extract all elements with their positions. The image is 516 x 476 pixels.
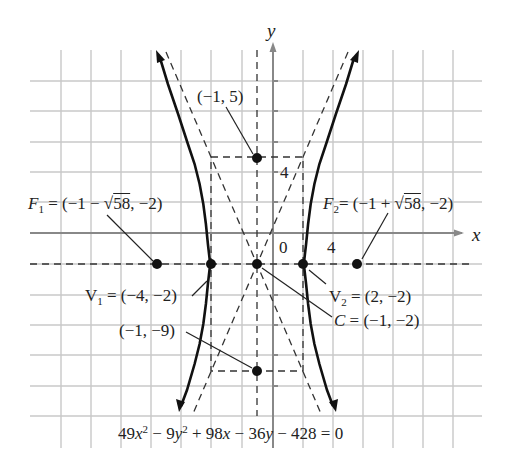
vertex1-dot [206,259,216,269]
top-dot [252,153,262,163]
axes [30,42,464,448]
x-axis-arrow-icon [454,230,464,237]
equation-label: 49x2 − 9y2 + 98x − 36y − 428 = 0 [118,425,343,442]
y-axis-arrow-icon [270,42,277,52]
x-tick-label: 4 [327,239,336,256]
arrow-top-left-icon [156,50,165,63]
bottom-point-label: (−1, −9) [119,322,175,339]
bottom-dot [252,366,262,376]
grid [30,50,482,448]
vertex2-label: V2 = (2, −2) [329,288,411,305]
y-tick-label: 4 [280,164,289,181]
center-dot [252,259,262,269]
y-axis-label: y [267,21,275,40]
vertex2-dot [298,259,308,269]
vertex1-label: V1 = (−4, −2) [85,287,177,304]
graph-canvas [0,0,516,476]
center-label: C = (−1, −2) [334,312,419,329]
origin-label: 0 [279,239,288,256]
focus1-label: F1 = (−1 − √58, −2) [28,195,162,212]
focus1-dot [152,259,162,269]
focus2-label: F2= (−1 + √58, −2) [323,195,453,212]
arrow-top-right-icon [350,50,359,63]
focus2-dot [352,259,362,269]
hyperbola-figure: y x 0 4 4 F1 = (−1 − √58, −2) F2= (−1 + … [0,0,516,476]
top-point-label: (−1, 5) [197,88,243,105]
x-axis-label: x [472,225,480,244]
